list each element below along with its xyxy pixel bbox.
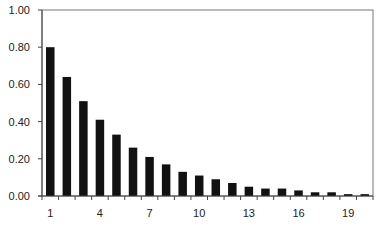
bar (96, 120, 105, 196)
bars (46, 47, 369, 196)
y-tick-label: 1.00 (9, 4, 30, 16)
bar (311, 192, 320, 196)
plot-border (42, 10, 373, 196)
y-tick-label: 0.00 (9, 190, 30, 202)
y-tick-label: 0.60 (9, 78, 30, 90)
bar (294, 190, 303, 196)
bar (278, 189, 287, 196)
bar (112, 135, 121, 196)
bar (195, 176, 204, 196)
bar (63, 77, 71, 196)
bar-chart: 0.000.200.400.600.801.00 14710131619 (0, 0, 385, 227)
bar (79, 101, 88, 196)
bar (145, 157, 154, 196)
x-tick-label: 7 (147, 207, 153, 219)
x-tick-label: 19 (342, 207, 354, 219)
y-tick-label: 0.20 (9, 153, 30, 165)
bar (327, 192, 336, 196)
bar (178, 172, 187, 196)
plot-frame (42, 10, 373, 196)
bar (212, 179, 221, 196)
bar (162, 164, 171, 196)
x-tick-label: 10 (193, 207, 205, 219)
x-tick-label: 13 (243, 207, 255, 219)
bar (129, 148, 138, 196)
y-tick-label: 0.80 (9, 41, 30, 53)
y-axis: 0.000.200.400.600.801.00 (9, 4, 42, 202)
bar (228, 183, 237, 196)
bar (261, 189, 270, 196)
bar (245, 187, 254, 196)
y-tick-label: 0.40 (9, 116, 30, 128)
x-axis: 14710131619 (38, 196, 373, 219)
bar (46, 47, 55, 196)
x-tick-label: 16 (292, 207, 304, 219)
x-tick-label: 1 (47, 207, 53, 219)
x-tick-label: 4 (97, 207, 103, 219)
